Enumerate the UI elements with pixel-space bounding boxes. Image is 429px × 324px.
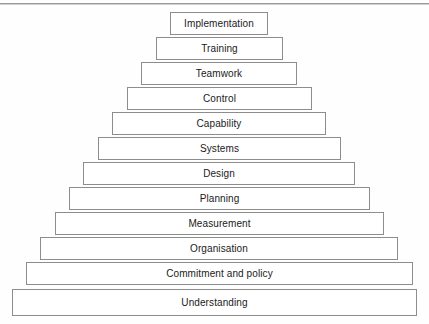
- pyramid-tier-label: Measurement: [188, 219, 250, 229]
- pyramid-tier: Commitment and policy: [26, 262, 413, 285]
- pyramid-tier-label: Implementation: [184, 19, 254, 29]
- pyramid-tier: Measurement: [55, 212, 384, 235]
- pyramid-tier: Control: [127, 87, 312, 110]
- pyramid-tier: Planning: [69, 187, 370, 210]
- stepped-pyramid-diagram: ImplementationTrainingTeamworkControlCap…: [0, 0, 429, 324]
- pyramid-tier-label: Planning: [200, 194, 240, 204]
- pyramid-tier-label: Control: [203, 94, 236, 104]
- pyramid-tier: Systems: [98, 137, 341, 160]
- diagram-page: ImplementationTrainingTeamworkControlCap…: [0, 0, 429, 324]
- pyramid-tier: Teamwork: [141, 62, 297, 85]
- pyramid-tier-label: Organisation: [190, 244, 248, 254]
- pyramid-tier-label: Teamwork: [196, 69, 242, 79]
- pyramid-tier-label: Training: [201, 44, 238, 54]
- pyramid-tier: Design: [83, 162, 355, 185]
- pyramid-tier-label: Design: [203, 169, 235, 179]
- pyramid-tier-label: Understanding: [181, 298, 247, 308]
- pyramid-tier: Implementation: [170, 12, 268, 35]
- pyramid-tier-label: Systems: [200, 144, 239, 154]
- pyramid-tier-label: Commitment and policy: [166, 269, 273, 279]
- pyramid-tier: Understanding: [12, 289, 417, 316]
- pyramid-tier: Capability: [112, 112, 326, 135]
- pyramid-tier-label: Capability: [197, 119, 242, 129]
- pyramid-tier: Training: [156, 37, 283, 60]
- pyramid-tier: Organisation: [40, 237, 398, 260]
